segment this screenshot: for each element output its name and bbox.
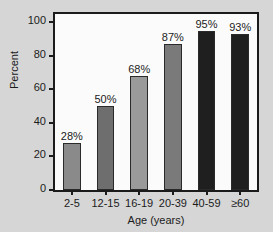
bar: 93% [231, 34, 249, 190]
x-tick-mark [105, 190, 107, 195]
y-tick-label: 60 [34, 81, 46, 93]
x-tick-mark [71, 190, 73, 195]
bar-value-label: 50% [94, 93, 116, 105]
x-tick-mark [138, 190, 140, 195]
bar: 68% [130, 76, 148, 190]
x-tick-label: 20-39 [159, 197, 187, 209]
y-tick-label: 100 [28, 14, 46, 26]
y-tick-mark [49, 189, 55, 191]
x-tick-mark [206, 190, 208, 195]
bar: 95% [198, 31, 216, 190]
bar-value-label: 28% [61, 130, 83, 142]
bar: 87% [164, 44, 182, 190]
x-tick-label: 40-59 [192, 197, 220, 209]
y-tick-mark [49, 155, 55, 157]
x-tick-mark [239, 190, 241, 195]
y-axis-title: Percent [8, 25, 20, 115]
y-tick-label: 20 [34, 148, 46, 160]
x-tick-mark [172, 190, 174, 195]
y-tick-mark [49, 55, 55, 57]
bar-value-label: 87% [162, 31, 184, 43]
bar: 28% [63, 143, 81, 190]
y-tick-label: 0 [40, 182, 46, 194]
bar-value-label: 95% [195, 18, 217, 30]
plot-area: 020406080100 28%50%68%87%95%93% 2-512-15… [53, 12, 259, 192]
x-axis-title: Age (years) [53, 214, 259, 226]
x-tick-label: 16-19 [125, 197, 153, 209]
x-tick-label: 2-5 [64, 197, 80, 209]
x-tick-label: 12-15 [91, 197, 119, 209]
chart-figure: Percent 020406080100 28%50%68%87%95%93% … [0, 0, 273, 232]
bar: 50% [97, 106, 115, 190]
y-tick-label: 80 [34, 48, 46, 60]
y-tick-mark [49, 21, 55, 23]
y-tick-mark [49, 122, 55, 124]
bar-value-label: 93% [229, 21, 251, 33]
x-tick-label: ≥60 [231, 197, 249, 209]
y-tick-mark [49, 88, 55, 90]
bar-value-label: 68% [128, 63, 150, 75]
y-tick-label: 40 [34, 115, 46, 127]
